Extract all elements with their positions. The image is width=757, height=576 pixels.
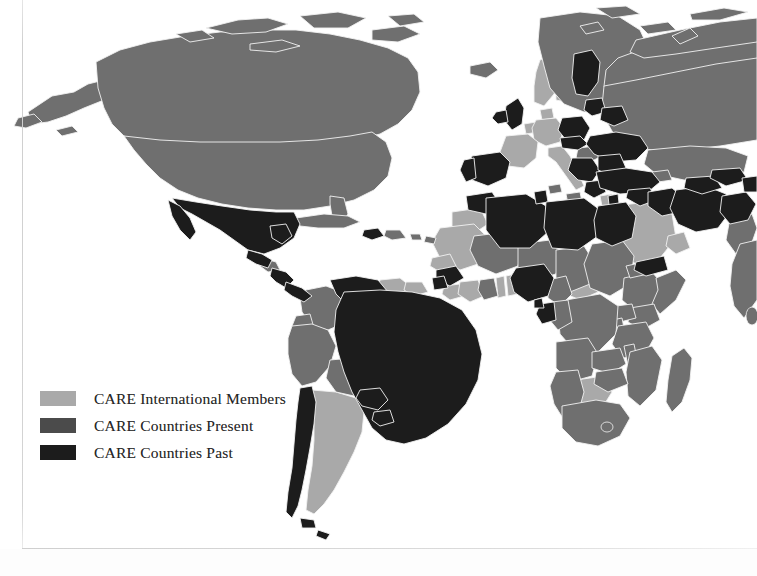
country-shape [548,184,562,194]
legend-swatch-past [40,445,76,460]
country-shape [300,518,316,528]
country-shape [534,298,544,308]
legend-label-past: CARE Countries Past [94,445,233,461]
legend-swatch-present [40,418,76,433]
legend-label-present: CARE Countries Present [94,418,253,434]
country-shape [746,307,757,325]
figure-page: CARE International Members CARE Countrie… [0,0,757,576]
legend-item-members: CARE International Members [40,388,310,409]
legend-label-members: CARE International Members [94,391,286,407]
legend-swatch-members [40,391,76,406]
country-shape [601,422,613,432]
country-shape [424,236,436,244]
country-shape [742,176,757,192]
country-shape [594,202,636,246]
page-border-bottom [22,548,757,549]
map-legend: CARE International Members CARE Countrie… [40,388,310,469]
legend-item-past: CARE Countries Past [40,442,310,463]
page-border-left [22,0,23,549]
country-shape [410,234,422,240]
legend-item-present: CARE Countries Present [40,415,310,436]
